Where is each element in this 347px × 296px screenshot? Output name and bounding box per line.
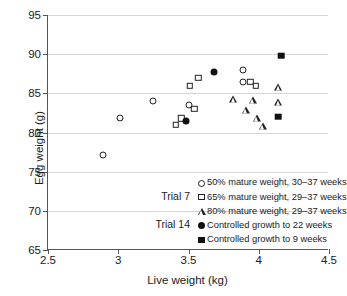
data-point <box>195 74 201 80</box>
data-point <box>116 114 123 121</box>
y-axis-label: Egg weight (g) <box>33 111 45 185</box>
legend-item-label: 50% mature weight, 30–37 weeks <box>207 178 347 187</box>
legend-item-label: Controlled growth to 9 weeks <box>207 235 327 244</box>
y-tick-mark <box>43 93 48 94</box>
y-tick-label: 95 <box>28 9 41 21</box>
x-tick-label: 4 <box>256 254 262 266</box>
y-tick-label: 70 <box>28 205 41 217</box>
legend-item-label: 65% mature weight, 29–37 weeks <box>207 193 347 202</box>
legend-marker-icon <box>196 204 207 218</box>
data-point <box>259 123 267 130</box>
square-open-icon <box>198 194 204 200</box>
data-point <box>99 152 106 159</box>
data-point <box>150 98 157 105</box>
legend-item: Controlled growth to 22 weeks <box>196 219 346 233</box>
data-point <box>249 96 257 103</box>
scatter-chart: 65707580859095 2.533.544.5 Egg weight (g… <box>0 0 347 296</box>
legend-item-label: Controlled growth to 22 weeks <box>207 221 332 230</box>
data-point <box>191 106 197 112</box>
x-tick-label: 3 <box>115 254 121 266</box>
data-point <box>242 106 250 113</box>
circle-filled-icon <box>198 222 205 229</box>
data-point <box>253 115 261 122</box>
legend-marker-icon <box>196 190 207 204</box>
data-point <box>173 121 179 127</box>
y-tick-mark <box>43 15 48 16</box>
legend-item: 65% mature weight, 29–37 weeks <box>196 190 346 204</box>
data-point <box>275 114 282 121</box>
data-point <box>240 66 247 73</box>
x-tick-label: 3.5 <box>181 254 197 266</box>
legend-item-label: 80% mature weight, 29–37 weeks <box>207 207 347 216</box>
gridline <box>48 133 328 134</box>
data-point <box>253 82 259 88</box>
legend-item: Controlled growth to 9 weeks <box>196 233 346 247</box>
gridline <box>48 54 328 55</box>
square-filled-icon <box>198 237 205 244</box>
data-point <box>274 84 282 91</box>
data-point <box>229 95 237 102</box>
y-tick-label: 85 <box>28 87 41 99</box>
x-axis-label: Live weight (kg) <box>47 274 328 286</box>
data-point <box>278 52 285 59</box>
legend-marker-icon <box>196 219 207 233</box>
x-tick-label: 4.5 <box>321 254 337 266</box>
data-point <box>274 98 282 105</box>
legend-marker-icon <box>196 233 207 247</box>
x-tick-label: 2.5 <box>40 254 56 266</box>
gridline <box>48 15 328 16</box>
legend-group-tag-trial-7: Trial 7 <box>128 190 190 202</box>
gridline <box>48 93 328 94</box>
y-tick-mark <box>43 211 48 212</box>
legend-item: 50% mature weight, 30–37 weeks <box>196 176 346 190</box>
data-point <box>182 117 189 124</box>
legend-group-tag-trial-14: Trial 14 <box>128 218 190 230</box>
y-tick-mark <box>43 54 48 55</box>
legend-item: 80% mature weight, 29–37 weeks <box>196 204 346 218</box>
legend: 50% mature weight, 30–37 weeks65% mature… <box>196 176 346 247</box>
circle-open-icon <box>198 180 205 187</box>
y-tick-label: 90 <box>28 48 41 60</box>
data-point <box>240 78 247 85</box>
gridline <box>48 172 328 173</box>
triangle-open-icon <box>198 208 206 215</box>
data-point <box>210 69 217 76</box>
legend-marker-icon <box>196 176 207 190</box>
data-point <box>187 82 193 88</box>
